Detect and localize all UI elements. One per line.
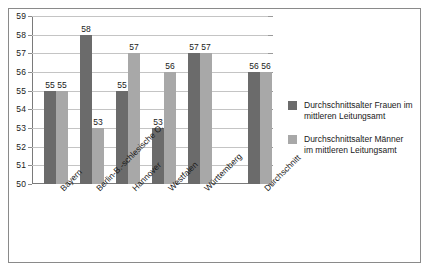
legend-label: Durchschnittsalter Frauen im mittleren L… — [304, 100, 414, 122]
bar-value-label: 56 — [255, 61, 277, 71]
y-axis-labels: 50515253545556575859 — [0, 16, 26, 184]
y-axis-tick — [28, 184, 32, 185]
y-axis-tick-label: 54 — [2, 104, 26, 114]
bar-maenner[interactable] — [56, 91, 68, 184]
bar-maenner[interactable] — [92, 128, 104, 184]
bar-group: 5656 — [248, 16, 272, 184]
bar-maenner[interactable] — [128, 53, 140, 184]
bar-maenner[interactable] — [164, 72, 176, 184]
y-axis-tick-label: 58 — [2, 30, 26, 40]
bar-value-label: 58 — [75, 24, 97, 34]
bar-maenner[interactable] — [260, 72, 272, 184]
bar-frauen[interactable] — [80, 35, 92, 184]
bar-frauen[interactable] — [248, 72, 260, 184]
bar-value-label: 56 — [159, 61, 181, 71]
bar-group: 5853 — [80, 16, 104, 184]
legend-swatch-frauen — [288, 101, 297, 110]
legend-swatch-maenner — [288, 135, 297, 144]
y-axis-tick-label: 59 — [2, 11, 26, 21]
bar-value-label: 57 — [123, 42, 145, 52]
y-axis-tick-label: 52 — [2, 142, 26, 152]
y-axis-tick-label: 57 — [2, 48, 26, 58]
bar-value-label: 57 — [195, 42, 217, 52]
legend-entry[interactable]: Durchschnittsalter Frauen im mittleren L… — [288, 100, 414, 122]
y-axis-tick-label: 51 — [2, 160, 26, 170]
y-axis-tick-label: 53 — [2, 123, 26, 133]
x-axis-labels: BayernBerlin-B.-schlesische O.HannoverWe… — [32, 186, 292, 256]
y-axis-tick-label: 55 — [2, 86, 26, 96]
y-axis-tick-label: 56 — [2, 67, 26, 77]
legend-entry[interactable]: Durchschnittsalter Männer im mittleren L… — [288, 134, 414, 156]
bar-maenner[interactable] — [200, 53, 212, 184]
bar-value-label: 53 — [87, 117, 109, 127]
y-axis-tick-label: 50 — [2, 179, 26, 189]
chart-figure: 50515253545556575859 5555585355575356575… — [0, 0, 429, 271]
bar-group: 5555 — [44, 16, 68, 184]
legend-label: Durchschnittsalter Männer im mittleren L… — [304, 134, 414, 156]
chart-legend: Durchschnittsalter Frauen im mittleren L… — [288, 100, 414, 168]
bar-frauen[interactable] — [44, 91, 56, 184]
bar-value-label: 55 — [51, 80, 73, 90]
